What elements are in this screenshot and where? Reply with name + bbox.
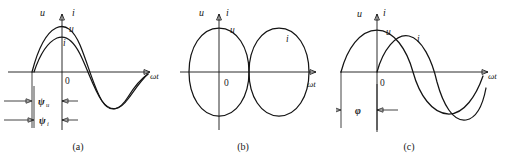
- curve-u: [32, 27, 148, 109]
- panel-b-i-axis-label: i: [226, 7, 229, 18]
- panel-b-u-curve-label: u: [230, 25, 235, 35]
- panel-a-i-curve-label: i: [63, 38, 66, 48]
- panel-b-u-axis-label: u: [199, 7, 204, 18]
- panel-c-origin-label: 0: [380, 78, 385, 88]
- dimension-phi: φ: [336, 105, 398, 116]
- figure-container: ψ u ψ i u i u i 0 ωt (a): [0, 0, 506, 158]
- psi-u-label: ψ: [38, 96, 45, 107]
- curve-i: [34, 37, 148, 109]
- panel-c-omega-t-label: ωt: [488, 71, 497, 81]
- panel-a-caption: (a): [72, 141, 83, 153]
- dimension-psi-u: ψ u: [4, 96, 78, 108]
- panel-c-i-axis-label: i: [383, 7, 386, 18]
- phi-label: φ: [355, 105, 361, 116]
- psi-i-subscript: i: [47, 120, 49, 127]
- psi-i-label: ψ: [39, 115, 46, 126]
- panel-a-u-curve-label: u: [69, 24, 74, 34]
- panel-a-origin-label: 0: [65, 76, 70, 86]
- panel-c-axes: [340, 14, 488, 132]
- panel-a-i-axis-label: i: [72, 7, 75, 18]
- panel-a: ψ u ψ i u i u i 0 ωt (a): [0, 0, 170, 158]
- panel-b-omega-t-label: ωt: [307, 79, 316, 89]
- panel-b-origin-label: 0: [224, 78, 229, 88]
- curve-i: [377, 36, 486, 120]
- psi-u-subscript: u: [46, 101, 50, 108]
- panel-b: u i u i 0 ωt (b): [168, 0, 338, 158]
- panel-c-i-curve-label: i: [417, 34, 420, 44]
- panel-b-caption: (b): [237, 141, 249, 153]
- panel-a-omega-t-label: ωt: [150, 71, 159, 81]
- panel-c-caption: (c): [403, 141, 414, 153]
- panel-c: φ u i u i 0 ωt (c): [336, 0, 506, 158]
- panel-b-axes: [180, 14, 316, 130]
- panel-c-u-curve-label: u: [386, 27, 391, 37]
- panel-c-u-axis-label: u: [357, 8, 362, 19]
- dimension-psi-i: ψ i: [4, 115, 78, 127]
- panel-a-u-axis-label: u: [40, 7, 45, 18]
- panel-a-axes: [8, 14, 150, 130]
- panel-b-i-curve-label: i: [286, 34, 289, 44]
